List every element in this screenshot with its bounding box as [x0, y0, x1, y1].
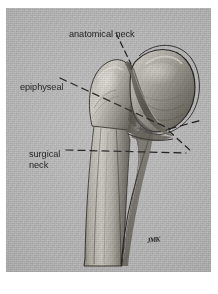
label-epiphyseal: epiphyseal [20, 82, 63, 93]
label-surgical-neck: surgical neck [29, 149, 60, 170]
artist-signature: JMK [147, 235, 160, 244]
figure-root: anatomical neck epiphyseal surgical neck… [0, 0, 218, 294]
label-anatomical-neck: anatomical neck [69, 29, 135, 40]
humerus-drawing [6, 8, 211, 272]
epiphyseal-axis-right [169, 131, 192, 152]
illustration-plate: anatomical neck epiphyseal surgical neck… [6, 8, 211, 272]
